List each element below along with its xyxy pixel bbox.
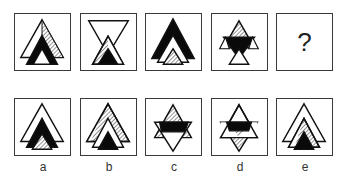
sequence-cell-question: ? (276, 13, 333, 71)
option-label-d: d (230, 160, 250, 174)
triangles-figure-icon (212, 14, 267, 70)
option-label-b: b (99, 160, 119, 174)
option-label-c: c (164, 160, 184, 174)
triangles-figure-icon (15, 99, 70, 155)
triangles-figure-icon (81, 99, 136, 155)
triangles-figure-icon (146, 99, 201, 155)
option-label-a: a (33, 160, 53, 174)
triangles-figure-icon (277, 99, 332, 155)
option-label-e: e (295, 160, 315, 174)
option-e[interactable] (276, 98, 333, 156)
triangles-figure-icon (15, 14, 70, 70)
option-a[interactable] (14, 98, 71, 156)
option-d[interactable] (211, 98, 268, 156)
sequence-cell-3 (145, 13, 202, 71)
question-mark: ? (277, 14, 332, 70)
triangles-figure-icon (146, 14, 201, 70)
triangles-figure-icon (212, 99, 267, 155)
sequence-cell-4 (211, 13, 268, 71)
triangles-figure-icon (81, 14, 136, 70)
sequence-cell-1 (14, 13, 71, 71)
option-b[interactable] (80, 98, 137, 156)
option-c[interactable] (145, 98, 202, 156)
sequence-cell-2 (80, 13, 137, 71)
